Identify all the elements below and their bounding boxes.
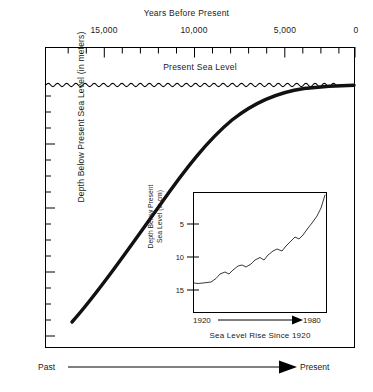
past-label: Past — [38, 362, 55, 372]
sea-level-figure: Years Before Present 15,000 10,000 5,000… — [0, 0, 373, 392]
present-label: Present — [300, 362, 329, 372]
timeline-arrowhead — [279, 361, 297, 374]
timeline-arrow-graphics — [0, 0, 373, 392]
